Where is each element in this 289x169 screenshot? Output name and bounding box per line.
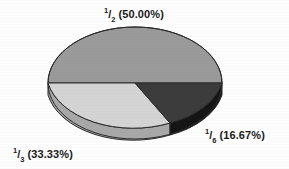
fraction-half: 1/2 xyxy=(104,5,116,25)
pie-label-half: 1/2(50.00%) xyxy=(104,5,164,25)
pie-slice-half xyxy=(48,27,222,83)
pie-label-third-percent: (33.33%) xyxy=(28,148,73,160)
pie-label-sixth: 1/6(16.67%) xyxy=(205,126,265,146)
fraction-denominator: 3 xyxy=(20,155,24,164)
fraction-sixth: 1/6 xyxy=(205,126,217,146)
pie-label-third: 1/3(33.33%) xyxy=(13,145,73,165)
fraction-numerator: 1 xyxy=(104,6,108,15)
pie-label-half-percent: (50.00%) xyxy=(119,8,164,20)
fraction-numerator: 1 xyxy=(205,127,209,136)
fraction-third: 1/3 xyxy=(13,145,25,165)
pie-label-sixth-percent: (16.67%) xyxy=(220,129,265,141)
fraction-numerator: 1 xyxy=(13,146,17,155)
fraction-denominator: 2 xyxy=(111,15,115,24)
fraction-denominator: 6 xyxy=(212,136,216,145)
pie-chart-figure: 1/2(50.00%) 1/3(33.33%) 1/6(16.67%) xyxy=(0,0,289,169)
